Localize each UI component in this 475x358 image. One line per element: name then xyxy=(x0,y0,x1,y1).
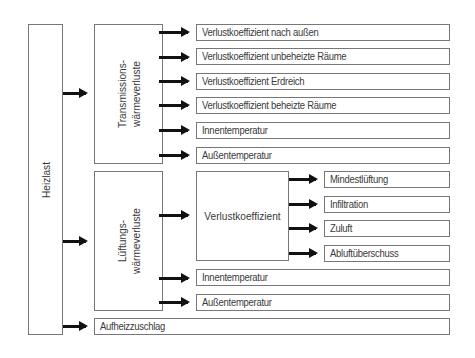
leaf-infiltration: Infiltration xyxy=(324,196,450,213)
arrow-heizlast-to-transmission xyxy=(63,92,86,95)
arrow-transmission-5 xyxy=(159,129,188,132)
arrow-vk-to-abluftueberschuss xyxy=(289,252,316,255)
arrow-transmission-3 xyxy=(159,80,188,83)
arrow-lueftung-to-innentemperatur xyxy=(159,277,188,280)
transmission-label-line2: wärmeverluste xyxy=(129,60,143,128)
verlustkoeffizient-label: Verlustkoeffizient xyxy=(202,210,282,222)
leaf-aufheizzuschlag: Aufheizzuschlag xyxy=(94,318,450,335)
arrow-lueftung-to-aussentemperatur xyxy=(159,301,188,304)
arrow-vk-to-zuluft xyxy=(289,227,316,230)
heizlast-label: Heizlast xyxy=(39,162,53,198)
transmission-label: Transmissions- wärmeverluste xyxy=(115,60,143,128)
arrow-vk-to-infiltration xyxy=(289,203,316,206)
leaf-label: Abluftüberschuss xyxy=(330,246,398,261)
leaf-label: Verlustkoeffizient unbeheizte Räume xyxy=(202,49,346,64)
leaf-label: Verlustkoeffizient beheizte Räume xyxy=(202,98,336,113)
leaf-label: Infiltration xyxy=(330,197,368,212)
transmission-label-line1: Transmissions- xyxy=(115,60,129,128)
node-verlustkoeffizient-lueftung: Verlustkoeffizient xyxy=(196,171,289,261)
lueftung-label-line2: wärmeverluste xyxy=(129,208,143,274)
lueftung-label: Lüftungs- wärmeverluste xyxy=(115,208,143,274)
leaf-label: Verlustkoeffizient Erdreich xyxy=(202,74,304,89)
leaf-label: Aufheizzuschlag xyxy=(100,319,165,334)
arrow-transmission-4 xyxy=(159,104,188,107)
leaf-aussentemperatur-transmission: Außentemperatur xyxy=(196,147,450,164)
leaf-label: Innentemperatur xyxy=(202,123,268,138)
node-transmissionswaermeverluste: Transmissions- wärmeverluste xyxy=(94,24,163,164)
arrow-transmission-1 xyxy=(159,31,188,34)
leaf-label: Mindestlüftung xyxy=(330,172,388,187)
lueftung-label-line1: Lüftungs- xyxy=(115,208,129,274)
leaf-mindestlueftung: Mindestlüftung xyxy=(324,171,450,188)
leaf-verlustkoeffizient-unbeheizte-raeume: Verlustkoeffizient unbeheizte Räume xyxy=(196,48,450,65)
leaf-zuluft: Zuluft xyxy=(324,220,450,237)
leaf-label: Zuluft xyxy=(330,221,352,236)
leaf-innentemperatur-lueftung: Innentemperatur xyxy=(196,269,450,286)
leaf-abluftueberschuss: Abluftüberschuss xyxy=(324,245,450,262)
leaf-verlustkoeffizient-beheizte-raeume: Verlustkoeffizient beheizte Räume xyxy=(196,97,450,114)
node-heizlast: Heizlast xyxy=(28,24,63,335)
leaf-label: Innentemperatur xyxy=(202,270,268,285)
arrow-transmission-2 xyxy=(159,56,188,59)
arrow-lueftung-to-verlustkoeffizient xyxy=(159,214,188,217)
arrow-transmission-6 xyxy=(159,154,188,157)
leaf-label: Verlustkoeffizient nach außen xyxy=(202,25,318,40)
leaf-verlustkoeffizient-nach-aussen: Verlustkoeffizient nach außen xyxy=(196,24,450,41)
leaf-innentemperatur-transmission: Innentemperatur xyxy=(196,122,450,139)
leaf-verlustkoeffizient-erdreich: Verlustkoeffizient Erdreich xyxy=(196,73,450,90)
arrow-vk-to-mindestlueftung xyxy=(289,178,316,181)
leaf-label: Außentemperatur xyxy=(202,295,272,310)
leaf-label: Außentemperatur xyxy=(202,148,272,163)
leaf-aussentemperatur-lueftung: Außentemperatur xyxy=(196,294,450,311)
arrow-heizlast-to-aufheizzuschlag xyxy=(63,325,86,328)
node-lueftungswaermeverluste: Lüftungs- wärmeverluste xyxy=(94,171,163,311)
arrow-heizlast-to-lueftung xyxy=(63,240,86,243)
